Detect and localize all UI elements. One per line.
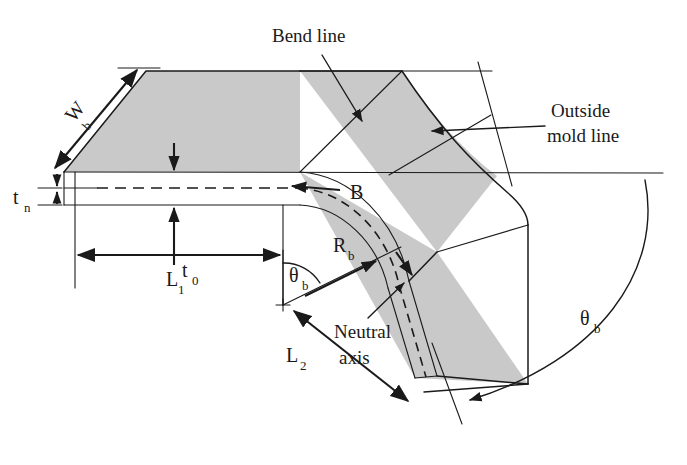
label-neutral-offset-symbol: t <box>13 186 19 208</box>
label-bend-angle-outer-symbol: θ <box>580 307 590 329</box>
bend-geometry-diagram: W b t n t 0 L 1 θ b R b <box>0 0 687 465</box>
label-sheet-thickness-subscript: 0 <box>192 273 199 288</box>
label-sheet-thickness-symbol: t <box>182 259 188 281</box>
diagram-canvas: W b t n t 0 L 1 θ b R b <box>0 0 687 465</box>
label-neutral-offset-subscript: n <box>24 200 31 215</box>
label-flange-length-2-symbol: L <box>286 344 298 366</box>
label-neutral-axis-2: axis <box>339 347 370 368</box>
label-bend-allowance: B <box>350 181 363 203</box>
label-bend-angle-inner-subscript: b <box>302 278 309 293</box>
label-bend-angle-outer-subscript: b <box>594 321 601 336</box>
label-outside-mold-line-1: Outside <box>551 100 610 121</box>
label-outside-mold-line-2: mold line <box>547 125 619 146</box>
label-flange-length-1-symbol: L <box>166 268 178 290</box>
label-bend-line: Bend line <box>272 25 345 46</box>
label-neutral-axis-1: Neutral <box>334 321 391 342</box>
label-flange-length-2-subscript: 2 <box>300 358 307 373</box>
label-bend-radius-subscript: b <box>348 248 355 263</box>
label-flange-length-1-subscript: 1 <box>178 282 185 297</box>
label-bend-radius-symbol: R <box>333 234 347 256</box>
label-bend-angle-inner-symbol: θ <box>289 264 299 286</box>
